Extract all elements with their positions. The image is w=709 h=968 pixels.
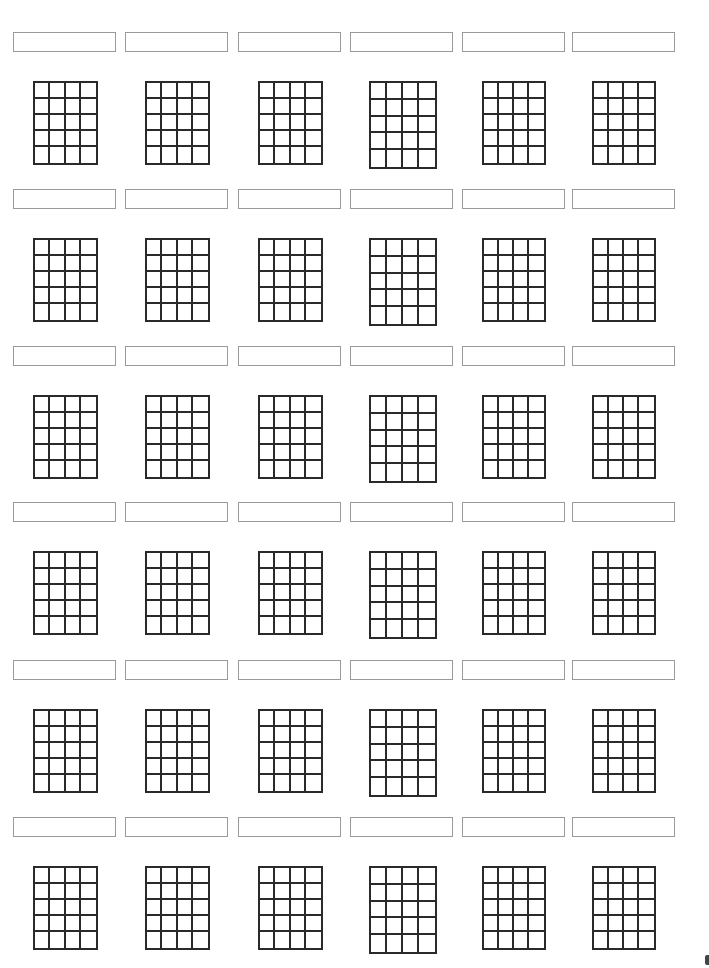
- fret-cell: [594, 413, 609, 429]
- fret-cell: [387, 257, 403, 274]
- fret-cell: [419, 240, 435, 257]
- chord-name-field[interactable]: [238, 189, 341, 209]
- chord-name-field[interactable]: [462, 346, 565, 366]
- fret-cell: [387, 570, 403, 587]
- fret-cell: [387, 587, 403, 604]
- chord-name-field[interactable]: [572, 817, 675, 837]
- fret-cell: [66, 711, 81, 727]
- fret-cell: [306, 759, 321, 775]
- fret-cell: [514, 759, 529, 775]
- chord-name-field[interactable]: [125, 32, 228, 52]
- chord-name-field[interactable]: [13, 189, 116, 209]
- fret-cell: [50, 932, 65, 948]
- fret-cell: [260, 601, 275, 617]
- fret-cell: [514, 884, 529, 900]
- chord-name-field[interactable]: [13, 660, 116, 680]
- fret-cell: [193, 743, 208, 759]
- fret-cell: [162, 585, 177, 601]
- chord-name-field[interactable]: [572, 32, 675, 52]
- fret-cell: [291, 759, 306, 775]
- fret-cell: [371, 553, 387, 570]
- fret-cell: [35, 99, 50, 115]
- fret-cell: [147, 759, 162, 775]
- fret-cell: [403, 620, 419, 637]
- fret-cell: [147, 868, 162, 884]
- fret-cell: [35, 601, 50, 617]
- fret-cell: [178, 932, 193, 948]
- fret-cell: [624, 240, 639, 256]
- chord-name-field[interactable]: [462, 817, 565, 837]
- fret-cell: [529, 727, 544, 743]
- chord-name-field[interactable]: [350, 189, 453, 209]
- fret-cell: [624, 115, 639, 131]
- chord-name-field[interactable]: [125, 189, 228, 209]
- fret-cell: [499, 743, 514, 759]
- chord-name-field[interactable]: [125, 346, 228, 366]
- fret-cell: [371, 728, 387, 745]
- fret-cell: [147, 461, 162, 477]
- chord-name-field[interactable]: [13, 32, 116, 52]
- fret-cell: [50, 900, 65, 916]
- fret-cell: [178, 553, 193, 569]
- fret-cell: [594, 617, 609, 633]
- fret-cell: [499, 553, 514, 569]
- fret-cell: [419, 902, 435, 919]
- fret-cell: [387, 620, 403, 637]
- fret-cell: [403, 603, 419, 620]
- chord-name-field[interactable]: [238, 502, 341, 522]
- chord-name-field[interactable]: [238, 817, 341, 837]
- chord-name-field[interactable]: [462, 32, 565, 52]
- chord-name-field[interactable]: [350, 660, 453, 680]
- fret-cell: [306, 256, 321, 272]
- fret-cell: [66, 413, 81, 429]
- chord-name-field[interactable]: [13, 817, 116, 837]
- chord-name-field[interactable]: [572, 346, 675, 366]
- chord-name-field[interactable]: [125, 660, 228, 680]
- chord-name-field[interactable]: [238, 660, 341, 680]
- chord-name-field[interactable]: [350, 346, 453, 366]
- chord-name-field[interactable]: [238, 32, 341, 52]
- chord-name-field[interactable]: [572, 660, 675, 680]
- fret-cell: [81, 461, 96, 477]
- fret-cell: [371, 397, 387, 414]
- chord-name-field[interactable]: [350, 32, 453, 52]
- fret-cell: [403, 290, 419, 307]
- fret-cell: [624, 397, 639, 413]
- chord-name-field[interactable]: [350, 502, 453, 522]
- fret-cell: [81, 711, 96, 727]
- chord-name-field[interactable]: [125, 817, 228, 837]
- fret-cell: [514, 115, 529, 131]
- fret-cell: [609, 569, 624, 585]
- chord-name-field[interactable]: [462, 660, 565, 680]
- fret-cell: [147, 445, 162, 461]
- fret-cell: [371, 133, 387, 150]
- fret-cell: [66, 131, 81, 147]
- chord-name-field[interactable]: [462, 502, 565, 522]
- chord-name-field[interactable]: [13, 502, 116, 522]
- fret-cell: [624, 775, 639, 791]
- chord-name-field[interactable]: [13, 346, 116, 366]
- chord-name-field[interactable]: [572, 189, 675, 209]
- fret-cell: [609, 147, 624, 163]
- fret-cell: [178, 304, 193, 320]
- fret-cell: [306, 585, 321, 601]
- chord-name-field[interactable]: [572, 502, 675, 522]
- chord-name-field[interactable]: [462, 189, 565, 209]
- fret-cell: [35, 775, 50, 791]
- fret-cell: [162, 932, 177, 948]
- chord-name-field[interactable]: [350, 817, 453, 837]
- chord-name-field[interactable]: [125, 502, 228, 522]
- fret-cell: [639, 83, 654, 99]
- fret-cell: [419, 761, 435, 778]
- fret-cell: [639, 617, 654, 633]
- fret-cell: [484, 256, 499, 272]
- fret-cell: [371, 307, 387, 324]
- fret-cell: [484, 272, 499, 288]
- fret-cell: [484, 601, 499, 617]
- fret-cell: [275, 83, 290, 99]
- fret-cell: [306, 397, 321, 413]
- fret-cell: [594, 83, 609, 99]
- fret-cell: [624, 759, 639, 775]
- chord-name-field[interactable]: [238, 346, 341, 366]
- fret-cell: [514, 147, 529, 163]
